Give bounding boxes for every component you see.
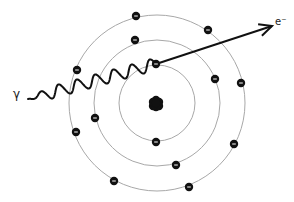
nucleus-icon [149,96,163,111]
photon-label: γ [13,87,20,101]
electron-icon [110,177,118,185]
electron-icon [152,60,160,68]
electron-icon [91,114,99,122]
electron-icon [172,161,180,169]
electron-icon [185,183,193,191]
atom-diagram [0,0,294,202]
electron-icon [211,75,219,83]
electron-icon [131,36,139,44]
electron-icon [237,79,245,87]
electron-icon [230,140,238,148]
electron-icon [152,138,160,146]
electron-icon [72,128,80,136]
electron-icon [204,26,212,34]
photon-wave-icon [28,59,156,99]
electron-icon [132,12,140,20]
ejection-arrow-icon [156,24,272,64]
ejected-electron-label: e⁻ [275,16,286,27]
electron-icon [73,66,81,74]
